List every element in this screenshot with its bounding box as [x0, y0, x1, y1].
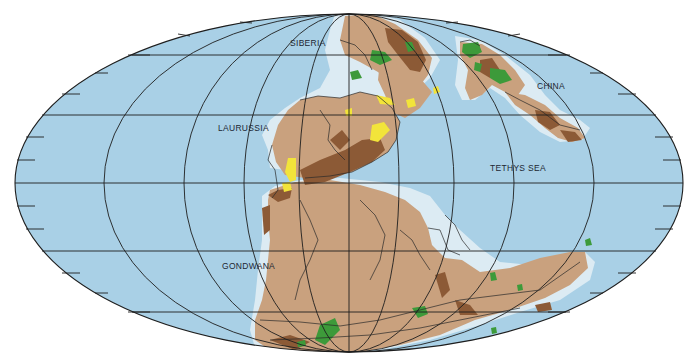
label-china: CHINA	[537, 81, 565, 91]
label-tethys-sea: TETHYS SEA	[490, 163, 546, 173]
label-laurussia: LAURUSSIA	[218, 123, 269, 133]
label-siberia: SIBERIA	[290, 38, 326, 48]
label-gondwana: GONDWANA	[222, 261, 275, 271]
paleogeographic-world-map	[0, 0, 695, 363]
